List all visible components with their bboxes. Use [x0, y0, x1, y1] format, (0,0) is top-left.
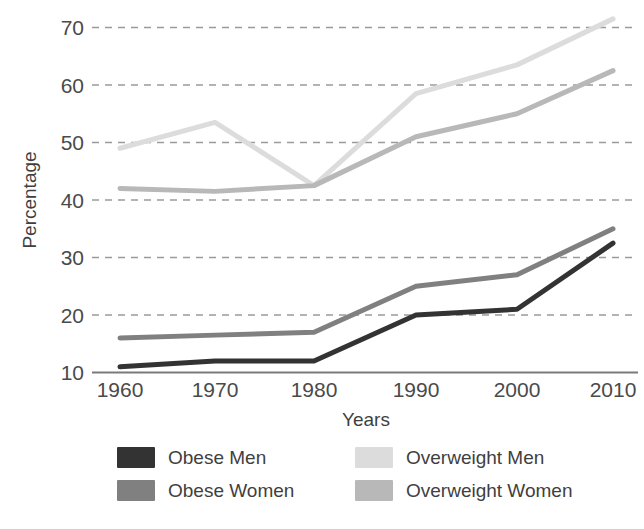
gridlines: [92, 28, 638, 316]
y-tick-labels: 70 60 50 40 30 20 10: [61, 16, 84, 384]
x-tick-2010: 2010: [590, 378, 637, 401]
legend-swatch-overweight-women: [355, 480, 393, 501]
y-axis-title: Percentage: [19, 151, 40, 248]
chart-container: 70 60 50 40 30 20 10 1960 1970 1980 1990…: [0, 0, 644, 529]
x-axis-title: Years: [342, 409, 390, 430]
x-tick-1990: 1990: [393, 378, 440, 401]
y-tick-70: 70: [61, 16, 84, 39]
legend-label-overweight-men: Overweight Men: [406, 447, 544, 468]
chart-legend: Obese Men Overweight Men Obese Women Ove…: [117, 447, 573, 501]
series-line-obese-women: [120, 229, 613, 338]
x-tick-1960: 1960: [97, 378, 144, 401]
y-tick-30: 30: [61, 246, 84, 269]
x-tick-1970: 1970: [192, 378, 239, 401]
y-tick-20: 20: [61, 304, 84, 327]
series-line-overweight-women: [120, 71, 613, 192]
line-chart: 70 60 50 40 30 20 10 1960 1970 1980 1990…: [0, 0, 644, 529]
x-tick-2000: 2000: [494, 378, 541, 401]
y-tick-60: 60: [61, 74, 84, 97]
x-tick-labels: 1960 1970 1980 1990 2000 2010: [97, 378, 637, 401]
legend-swatch-obese-women: [117, 480, 155, 501]
legend-label-obese-men: Obese Men: [168, 447, 266, 468]
legend-label-overweight-women: Overweight Women: [406, 480, 573, 501]
y-tick-40: 40: [61, 189, 84, 212]
y-tick-50: 50: [61, 131, 84, 154]
y-tick-10: 10: [61, 361, 84, 384]
x-tick-1980: 1980: [291, 378, 338, 401]
legend-swatch-overweight-men: [355, 447, 393, 468]
legend-swatch-obese-men: [117, 447, 155, 468]
legend-label-obese-women: Obese Women: [168, 480, 294, 501]
